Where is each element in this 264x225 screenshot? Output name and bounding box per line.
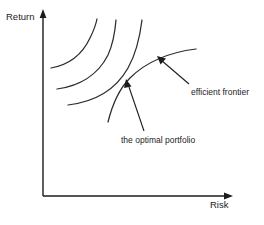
optimal-portfolio-leader: [124, 79, 144, 131]
optimal-portfolio-leader-line: [129, 87, 144, 131]
indifference-curve-2: [57, 20, 116, 89]
efficient-frontier-curve: [108, 49, 196, 122]
efficient-frontier-curve-group: [108, 49, 196, 122]
y-axis-label: Return: [6, 12, 35, 22]
efficient-frontier-diagram: [0, 0, 264, 225]
y-axis-arrowhead-icon: [40, 9, 47, 18]
x-axis-label: Risk: [210, 200, 228, 210]
y-axis: [40, 9, 47, 196]
optimal-portfolio-label: the optimal portfolio: [121, 136, 195, 145]
efficient-frontier-label: efficient frontier: [191, 88, 249, 97]
indifference-curve-1: [51, 19, 97, 68]
indifference-curves-group: [51, 19, 142, 105]
diagram-canvas: Return Risk efficient frontier the optim…: [0, 0, 264, 225]
x-axis: [43, 193, 233, 200]
efficient-frontier-leader: [157, 56, 189, 84]
efficient-frontier-leader-line: [161, 60, 189, 84]
